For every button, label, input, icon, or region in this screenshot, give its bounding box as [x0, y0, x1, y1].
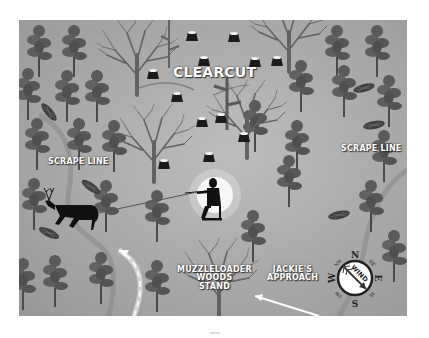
wind-compass: WIND N E S W NE SE SW NW [327, 250, 383, 309]
svg-text:E: E [373, 275, 383, 282]
scrape-line-left-label: SCRAPE LINE [48, 158, 109, 166]
approach-label: JACKIE'S APPROACH [267, 266, 318, 283]
hunting-map: WIND N E S W NE SE SW NW CLEARCUT SCRAPE… [19, 20, 407, 316]
svg-text:W: W [327, 272, 337, 284]
svg-text:S: S [352, 299, 359, 309]
footer-mark [210, 332, 220, 334]
muzzleloader-stand [185, 169, 241, 221]
svg-text:SW: SW [334, 290, 343, 299]
svg-text:NE: NE [368, 259, 377, 268]
clearcut-label: CLEARCUT [173, 65, 256, 80]
deer-silhouette [44, 188, 98, 230]
stand-label: MUZZLELOADER WOODS STAND [177, 266, 252, 291]
svg-text:SE: SE [368, 291, 376, 299]
stumps [147, 31, 283, 169]
scrape-line-right-label: SCRAPE LINE [341, 145, 402, 153]
svg-text:N: N [351, 250, 359, 260]
